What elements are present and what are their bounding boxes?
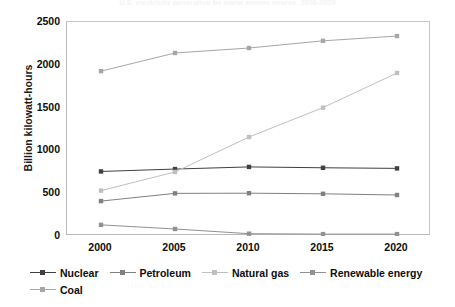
data-point-marker [395, 71, 399, 75]
data-point-marker [321, 192, 325, 196]
data-point-marker [247, 46, 251, 50]
data-point-marker [395, 166, 399, 170]
series-petroleum [99, 191, 399, 203]
x-axis-tick-label: 2005 [144, 241, 204, 253]
legend-label: Renewable energy [330, 267, 422, 279]
y-axis-tick-label: 2000 [20, 59, 60, 69]
data-point-marker [395, 34, 399, 38]
legend-label: Petroleum [140, 267, 191, 279]
data-point-marker [173, 170, 177, 174]
series-line [101, 36, 397, 71]
legend-item-nuclear[interactable]: Nuclear [30, 267, 99, 279]
series-renewable-energy [99, 223, 399, 236]
legend-row: NuclearPetroleumNatural gasRenewable ene… [30, 264, 450, 281]
plot-area [66, 21, 430, 235]
x-axis-tick-label: 2015 [292, 241, 352, 253]
data-point-marker [99, 223, 103, 227]
y-axis-tick-label: 500 [20, 187, 60, 197]
series-natural-gas [99, 71, 399, 193]
data-point-marker [173, 227, 177, 231]
data-point-marker [99, 188, 103, 192]
data-point-marker [99, 69, 103, 73]
data-point-marker [321, 39, 325, 43]
legend-item-petroleum[interactable]: Petroleum [110, 267, 191, 279]
data-point-marker [321, 232, 325, 236]
chart-legend: NuclearPetroleumNatural gasRenewable ene… [30, 264, 450, 298]
legend-item-natural-gas[interactable]: Natural gas [202, 267, 289, 279]
data-point-marker [395, 232, 399, 236]
y-axis-tick-label: 0 [20, 230, 60, 240]
legend-label: Coal [60, 284, 83, 296]
chart-title: U.S. electricity generation by major ene… [0, 0, 455, 5]
legend-swatch-icon [30, 268, 56, 277]
data-point-marker [99, 199, 103, 203]
data-point-marker [395, 193, 399, 197]
line-chart: U.S. electricity generation by major ene… [0, 0, 455, 307]
legend-label: Natural gas [232, 267, 289, 279]
data-point-marker [321, 166, 325, 170]
series-nuclear [99, 165, 399, 174]
series-lines [67, 22, 431, 236]
x-axis-tick-label: 2010 [218, 241, 278, 253]
legend-label: Nuclear [60, 267, 99, 279]
series-coal [99, 34, 399, 73]
y-axis-ticks: 05001000150020002500 [12, 0, 60, 307]
y-axis-tick-label: 1500 [20, 102, 60, 112]
legend-item-renewable-energy[interactable]: Renewable energy [300, 267, 422, 279]
data-point-marker [247, 231, 251, 235]
data-point-marker [247, 135, 251, 139]
y-axis-tick-label: 1000 [20, 144, 60, 154]
data-point-marker [173, 51, 177, 55]
data-point-marker [99, 169, 103, 173]
data-point-marker [173, 191, 177, 195]
x-axis-tick-label: 2000 [70, 241, 130, 253]
x-axis-tick-label: 2020 [366, 241, 426, 253]
y-axis-tick-label: 2500 [20, 16, 60, 26]
legend-swatch-icon [110, 268, 136, 277]
data-point-marker [247, 191, 251, 195]
legend-swatch-icon [300, 268, 326, 277]
legend-row: Coal [30, 281, 450, 298]
legend-swatch-icon [202, 268, 228, 277]
data-point-marker [247, 165, 251, 169]
series-line [101, 73, 397, 191]
legend-item-coal[interactable]: Coal [30, 284, 83, 296]
legend-swatch-icon [30, 285, 56, 294]
data-point-marker [321, 105, 325, 109]
